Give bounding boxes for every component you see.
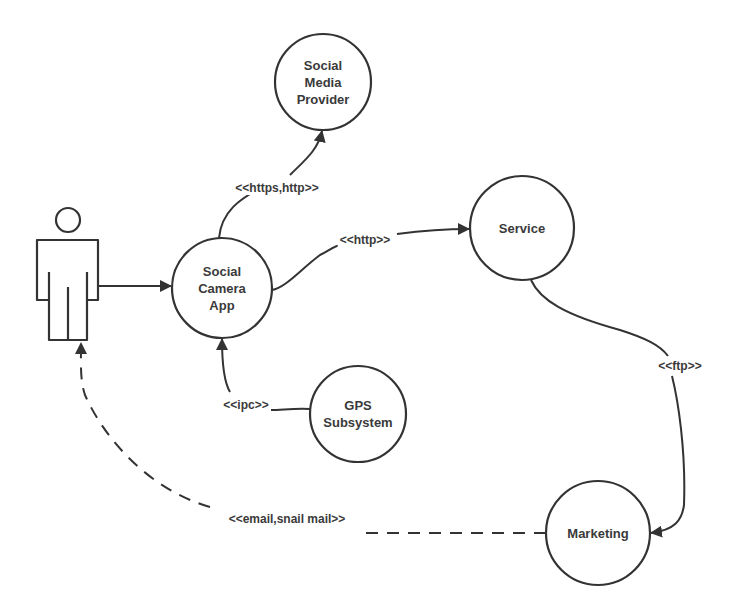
label-service: Service bbox=[499, 220, 545, 237]
edge-label-ipc: <<ipc>> bbox=[221, 398, 270, 412]
label-social-media-provider: Social Media Provider bbox=[297, 57, 350, 108]
label-gps-subsystem: GPS Subsystem bbox=[323, 397, 392, 431]
edge-label-email-snail-mail: <<email,snail mail>> bbox=[227, 512, 348, 526]
edge-label-https-http: <<https,http>> bbox=[233, 181, 320, 195]
actor-limbs bbox=[49, 272, 87, 340]
actor-head bbox=[56, 208, 80, 232]
actor-figure bbox=[37, 208, 98, 340]
edge-label-ftp: <<ftp>> bbox=[656, 359, 703, 373]
edge-marketing-to-actor[interactable] bbox=[81, 343, 546, 533]
label-social-camera-app: Social Camera App bbox=[198, 263, 246, 314]
edge-label-http: <<http>> bbox=[338, 233, 393, 247]
label-marketing: Marketing bbox=[567, 525, 628, 542]
diagram-canvas bbox=[0, 0, 736, 608]
